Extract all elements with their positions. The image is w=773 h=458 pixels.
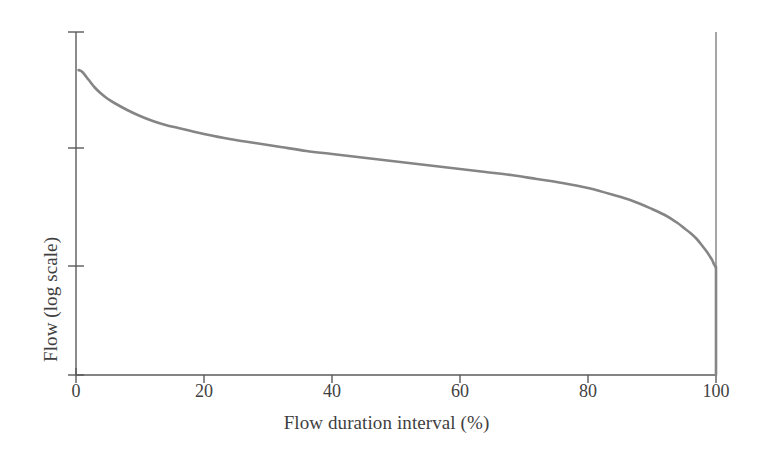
x-tick-label-80: 80 [568,381,608,402]
x-axis-title: Flow duration interval (%) [0,412,773,434]
x-tick-label-0: 0 [56,381,96,402]
flow-duration-curve-figure: Flow duration interval (%) Flow (log sca… [0,0,773,458]
flow-duration-curve-line [79,70,716,375]
chart-plot-area [0,0,773,458]
x-tick-label-60: 60 [440,381,480,402]
x-tick-label-40: 40 [312,381,352,402]
y-axis-title: Flow (log scale) [40,42,62,362]
x-tick-label-20: 20 [184,381,224,402]
x-tick-label-100: 100 [691,381,741,402]
